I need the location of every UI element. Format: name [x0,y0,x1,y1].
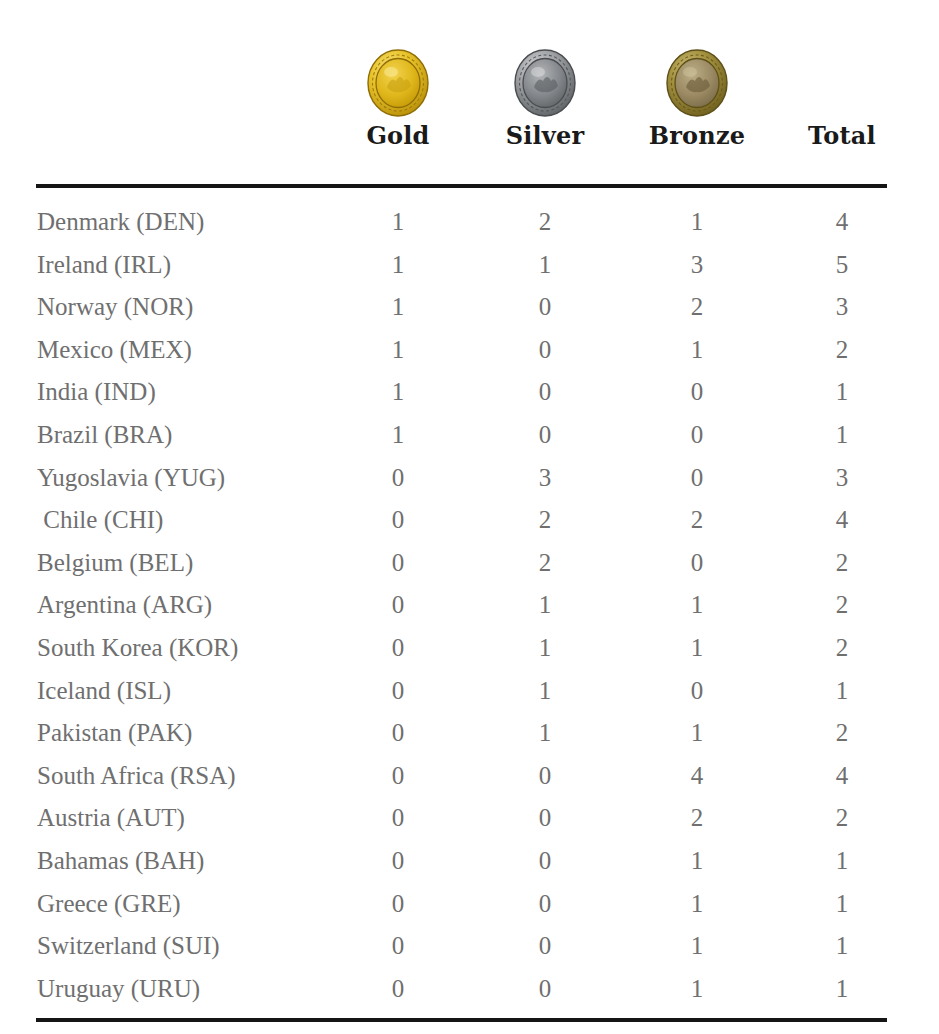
cell-silver: 0 [470,291,620,322]
cell-gold: 0 [323,462,473,493]
cell-country: South Korea (KOR) [37,632,357,663]
cell-gold: 0 [323,632,473,663]
column-header-gold: Gold [323,48,473,148]
column-header-silver-label: Silver [470,124,620,148]
table-body: Denmark (DEN)1214Ireland (IRL)1135Norway… [0,206,939,1015]
cell-country: Pakistan (PAK) [37,717,357,748]
table-row: Argentina (ARG)0112 [0,589,939,632]
cell-bronze: 0 [622,376,772,407]
cell-gold: 0 [323,589,473,620]
table-row: Greece (GRE)0011 [0,888,939,931]
cell-country: Belgium (BEL) [37,547,357,578]
table-row: Switzerland (SUI)0011 [0,930,939,973]
cell-total: 4 [767,206,917,237]
table-row: Pakistan (PAK)0112 [0,717,939,760]
cell-country: Austria (AUT) [37,802,357,833]
cell-bronze: 0 [622,675,772,706]
cell-total: 1 [767,888,917,919]
cell-total: 1 [767,376,917,407]
cell-total: 1 [767,675,917,706]
cell-gold: 0 [323,675,473,706]
cell-total: 2 [767,717,917,748]
cell-silver: 1 [470,249,620,280]
cell-country: Bahamas (BAH) [37,845,357,876]
bronze-medal-icon [664,48,730,118]
cell-bronze: 1 [622,334,772,365]
gold-medal-icon [365,48,431,118]
column-header-silver: Silver [470,48,620,148]
cell-bronze: 1 [622,973,772,1004]
cell-total: 3 [767,462,917,493]
cell-silver: 0 [470,419,620,450]
cell-total: 4 [767,504,917,535]
cell-bronze: 1 [622,888,772,919]
column-header-total-label: Total [767,124,917,148]
cell-country: India (IND) [37,376,357,407]
cell-gold: 0 [323,930,473,961]
cell-silver: 1 [470,675,620,706]
cell-gold: 0 [323,973,473,1004]
cell-gold: 0 [323,760,473,791]
table-row: Norway (NOR)1023 [0,291,939,334]
cell-silver: 0 [470,973,620,1004]
cell-gold: 1 [323,291,473,322]
cell-silver: 1 [470,632,620,663]
cell-silver: 0 [470,888,620,919]
cell-country: Yugoslavia (YUG) [37,462,357,493]
table-row: South Africa (RSA)0044 [0,760,939,803]
table-row: Iceland (ISL)0101 [0,675,939,718]
table-row: Chile (CHI)0224 [0,504,939,547]
cell-total: 3 [767,291,917,322]
cell-country: Greece (GRE) [37,888,357,919]
cell-silver: 0 [470,334,620,365]
cell-bronze: 2 [622,504,772,535]
cell-country: Denmark (DEN) [37,206,357,237]
cell-silver: 0 [470,845,620,876]
cell-country: Mexico (MEX) [37,334,357,365]
cell-silver: 0 [470,802,620,833]
medal-table-page: Gold [0,0,939,1034]
cell-gold: 0 [323,845,473,876]
cell-bronze: 2 [622,802,772,833]
cell-bronze: 0 [622,547,772,578]
cell-silver: 3 [470,462,620,493]
cell-silver: 2 [470,504,620,535]
cell-bronze: 1 [622,717,772,748]
table-row: Austria (AUT)0022 [0,802,939,845]
cell-bronze: 0 [622,419,772,450]
cell-silver: 2 [470,547,620,578]
table-row: Denmark (DEN)1214 [0,206,939,249]
cell-bronze: 0 [622,462,772,493]
footer-divider-rule [36,1018,887,1022]
cell-country: Iceland (ISL) [37,675,357,706]
cell-gold: 0 [323,802,473,833]
cell-total: 1 [767,845,917,876]
cell-country: Switzerland (SUI) [37,930,357,961]
table-row: Bahamas (BAH)0011 [0,845,939,888]
cell-country: South Africa (RSA) [37,760,357,791]
cell-country: Ireland (IRL) [37,249,357,280]
cell-bronze: 2 [622,291,772,322]
cell-bronze: 1 [622,930,772,961]
cell-total: 2 [767,589,917,620]
cell-country: Brazil (BRA) [37,419,357,450]
table-row: South Korea (KOR)0112 [0,632,939,675]
cell-silver: 0 [470,760,620,791]
cell-total: 4 [767,760,917,791]
cell-bronze: 1 [622,589,772,620]
column-header-bronze: Bronze [622,48,772,148]
cell-gold: 1 [323,376,473,407]
cell-silver: 0 [470,376,620,407]
cell-total: 1 [767,973,917,1004]
cell-total: 2 [767,632,917,663]
cell-silver: 0 [470,930,620,961]
cell-gold: 1 [323,206,473,237]
table-row: Uruguay (URU)0011 [0,973,939,1016]
table-row: Mexico (MEX)1012 [0,334,939,377]
header-divider-rule [36,184,887,188]
cell-gold: 1 [323,249,473,280]
cell-bronze: 3 [622,249,772,280]
cell-bronze: 4 [622,760,772,791]
table-row: India (IND)1001 [0,376,939,419]
column-header-gold-label: Gold [323,124,473,148]
